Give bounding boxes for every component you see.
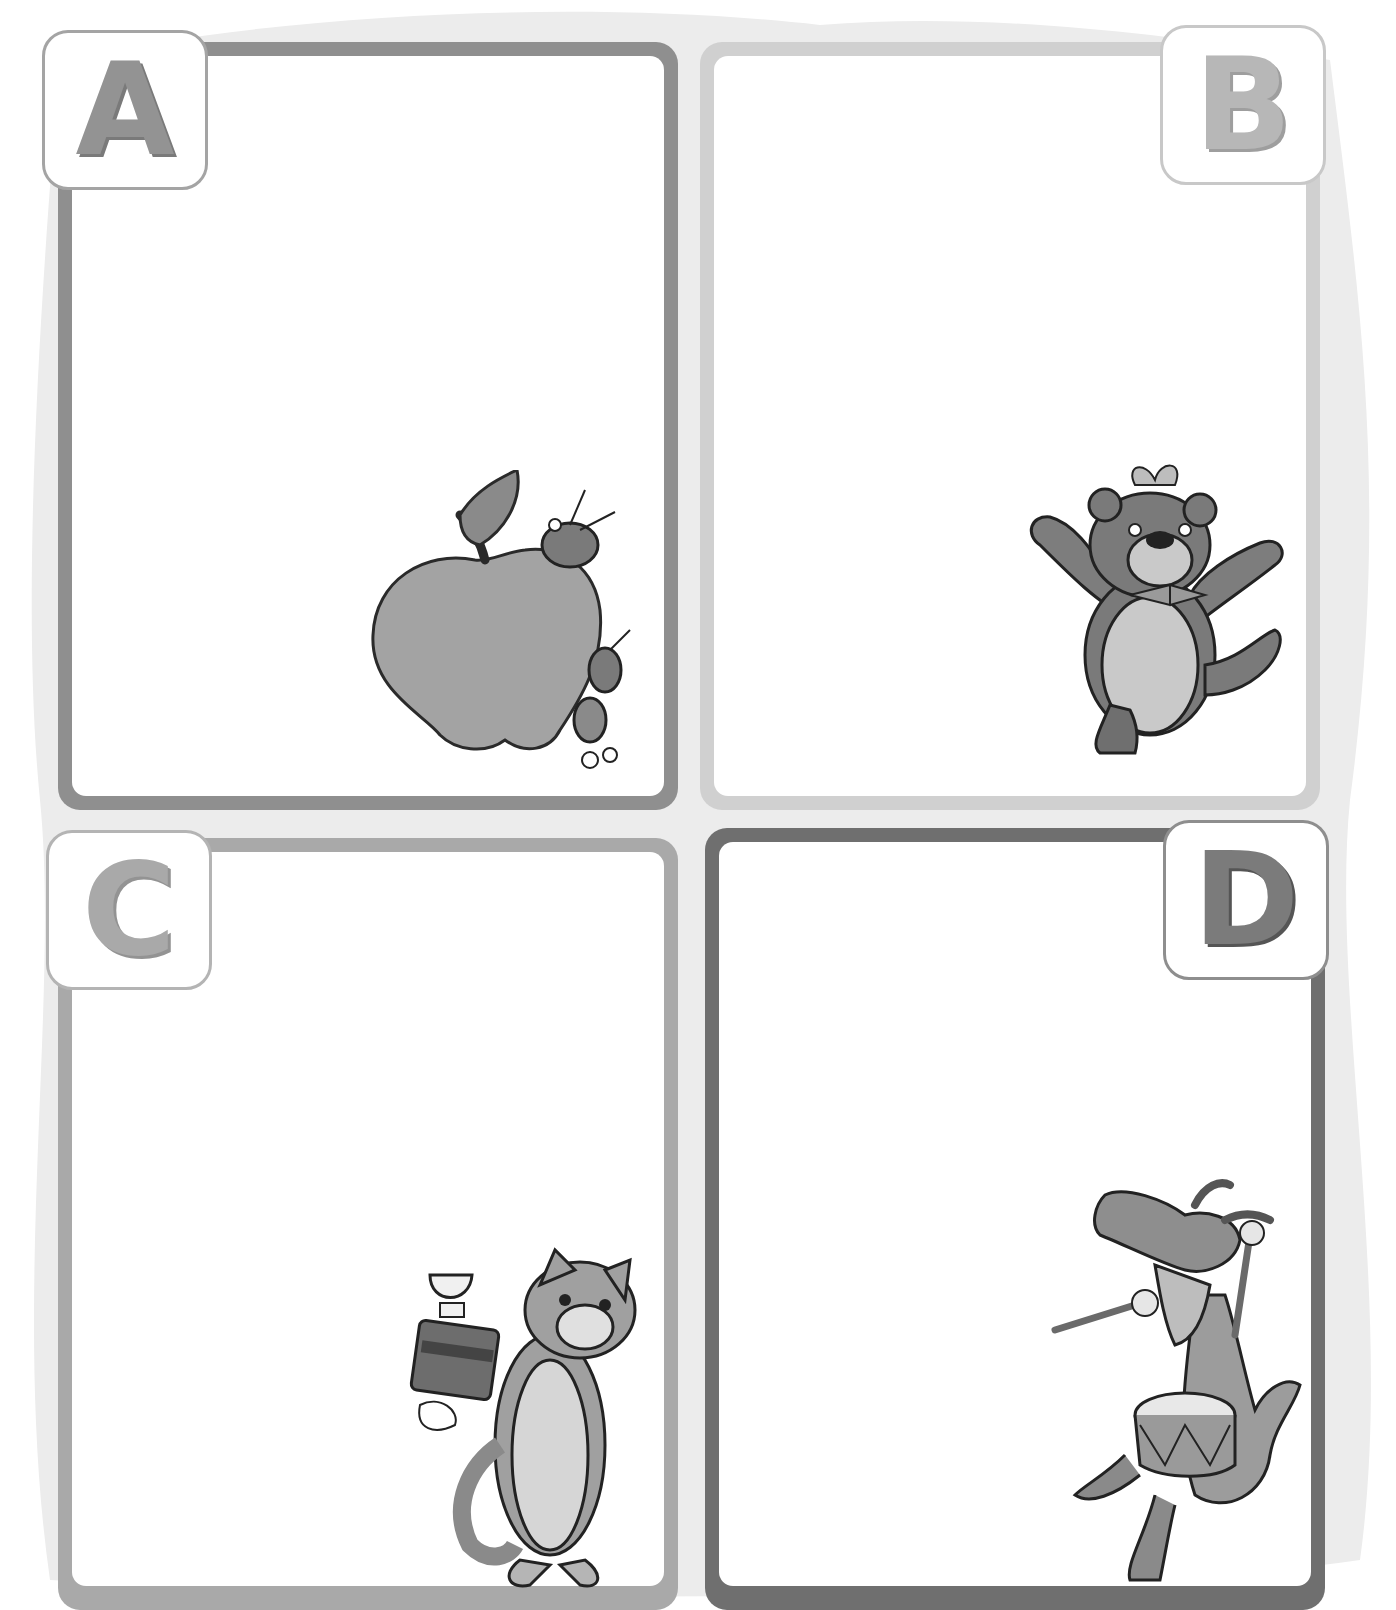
badge-a: A [42, 30, 208, 190]
apple-with-ants-illustration [365, 470, 635, 770]
letter-a: A [75, 46, 174, 174]
dragon-with-drum-illustration [1045, 1175, 1305, 1595]
badge-b: B [1160, 25, 1326, 185]
letter-b: B [1194, 41, 1292, 169]
badge-d: D [1163, 820, 1329, 980]
badge-c: C [46, 830, 212, 990]
bear-with-butterfly-illustration [1020, 455, 1290, 755]
letter-c: C [82, 846, 176, 974]
cat-with-cake-illustration [400, 1245, 650, 1595]
letter-d: D [1193, 836, 1299, 964]
